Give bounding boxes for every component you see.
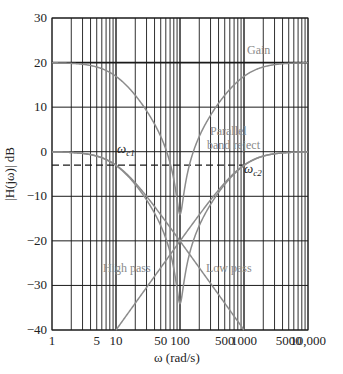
x-tick-label: 10 [110,333,123,348]
bode-plot: 3020100−10−20−30−40151050100500100050001… [0,0,343,374]
x-tick-label: 1 [49,333,56,348]
y-tick-label: 30 [34,10,47,25]
y-tick-label: −40 [27,322,47,337]
x-axis-title: ω (rad/s) [154,350,200,365]
x-tick-label: 50 [154,333,167,348]
x-tick-label: 100 [170,333,190,348]
x-tick-label: 5 [93,333,100,348]
y-tick-label: −30 [27,277,47,292]
label-high-pass: High pass [103,261,151,275]
y-tick-label: 0 [41,144,48,159]
label-band-reject: band reject [207,138,261,152]
label-low-pass: Low pass [206,261,252,275]
x-tick-label: 1000 [231,333,257,348]
label-wc1: ωc1 [117,141,135,158]
label-wc2: ωc2 [244,161,262,178]
y-tick-label: −20 [27,233,47,248]
y-tick-label: 10 [34,99,47,114]
y-tick-label: 20 [34,55,47,70]
x-tick-label: 10,000 [290,333,326,348]
label-gain: Gain [247,43,270,57]
y-axis-title: |H(jω)| dB [2,147,17,201]
y-tick-label: −10 [27,188,47,203]
label-parallel: Parallel [210,124,247,138]
